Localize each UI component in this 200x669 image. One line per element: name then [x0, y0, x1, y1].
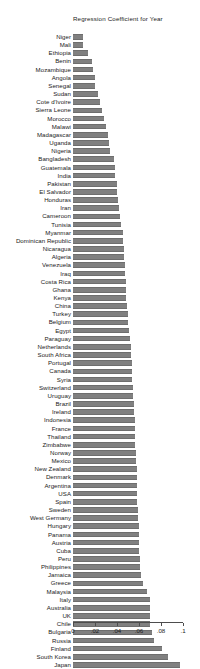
bar-category-label: Indonesia — [0, 416, 71, 424]
bar-category-label: South Africa — [0, 351, 71, 359]
bar-category-label: Netherlands — [0, 343, 71, 351]
bar-category-label: Iran — [0, 204, 71, 212]
bar-category-label: Mexico — [0, 457, 71, 465]
bar-row: New Zealand — [0, 465, 200, 473]
bar-track — [73, 604, 183, 612]
bar-category-label: Uganda — [0, 139, 71, 147]
bar-row: Spain — [0, 498, 200, 506]
bar-category-label: Ethiopia — [0, 49, 71, 57]
bar-fill — [73, 50, 88, 56]
bar-row: Benin — [0, 57, 200, 65]
bar-category-label: USA — [0, 490, 71, 498]
bar-fill — [73, 417, 135, 423]
x-axis-tick — [95, 623, 96, 626]
bar-fill — [73, 499, 137, 505]
bar-row: Syria — [0, 376, 200, 384]
bar-fill — [73, 450, 136, 456]
bar-category-label: Ireland — [0, 408, 71, 416]
bar-category-label: Pakistan — [0, 180, 71, 188]
x-axis-tick — [117, 623, 118, 626]
bar-fill — [73, 352, 131, 358]
bar-track — [73, 188, 183, 196]
bar-fill — [73, 401, 134, 407]
bar-category-label: Uruguay — [0, 392, 71, 400]
bar-fill — [73, 271, 125, 277]
x-axis-tick — [73, 623, 74, 626]
bar-category-label: Malaysia — [0, 588, 71, 596]
bar-row: Turkey — [0, 310, 200, 318]
bar-row: Iran — [0, 204, 200, 212]
bar-category-label: Niger — [0, 33, 71, 41]
bar-track — [73, 106, 183, 114]
bar-fill — [73, 91, 98, 97]
bar-fill — [73, 589, 147, 595]
bar-category-label: Spain — [0, 498, 71, 506]
bar-row: Cuba — [0, 547, 200, 555]
bar-fill — [73, 222, 121, 228]
bar-row: Iraq — [0, 270, 200, 278]
bar-category-label: Senegal — [0, 82, 71, 90]
x-axis-tick — [183, 623, 184, 626]
bar-category-label: Portugal — [0, 359, 71, 367]
bar-track — [73, 482, 183, 490]
bar-row: Ghana — [0, 286, 200, 294]
bar-fill — [73, 385, 133, 391]
bar-fill — [73, 132, 108, 138]
bar-category-label: Hungary — [0, 522, 71, 530]
bar-track — [73, 302, 183, 310]
bar-row: China — [0, 302, 200, 310]
bar-track — [73, 33, 183, 41]
bar-track — [73, 367, 183, 375]
bar-fill — [73, 116, 104, 122]
bar-row: France — [0, 425, 200, 433]
bar-fill — [73, 344, 131, 350]
bar-row: Egypt — [0, 327, 200, 335]
bar-fill — [73, 483, 137, 489]
bar-track — [73, 115, 183, 123]
bar-fill — [73, 189, 117, 195]
bar-row: Sudan — [0, 90, 200, 98]
bar-category-label: India — [0, 172, 71, 180]
bar-fill — [73, 540, 139, 546]
bar-row: Canada — [0, 367, 200, 375]
x-axis-tick — [139, 623, 140, 626]
bar-category-label: Denmark — [0, 473, 71, 481]
bar-track — [73, 245, 183, 253]
bar-track — [73, 425, 183, 433]
bar-category-label: Canada — [0, 367, 71, 375]
bar-row: Switzerland — [0, 384, 200, 392]
bar-row: UK — [0, 612, 200, 620]
bar-row: Honduras — [0, 196, 200, 204]
bar-row: Cameroon — [0, 212, 200, 220]
bar-track — [73, 384, 183, 392]
bar-fill — [73, 75, 95, 81]
bar-category-label: Cameroon — [0, 212, 71, 220]
bar-fill — [73, 197, 118, 203]
bar-row: Malaysia — [0, 588, 200, 596]
bar-fill — [73, 311, 128, 317]
bar-track — [73, 571, 183, 579]
bar-fill — [73, 181, 117, 187]
bar-fill — [73, 124, 106, 130]
bar-row: Kenya — [0, 294, 200, 302]
bar-fill — [73, 328, 129, 334]
bar-track — [73, 310, 183, 318]
bar-fill — [73, 156, 114, 162]
bar-track — [73, 359, 183, 367]
bar-row: Brazil — [0, 400, 200, 408]
bar-track — [73, 164, 183, 172]
bar-row: Sierra Leone — [0, 106, 200, 114]
bar-fill — [73, 287, 126, 293]
bar-fill — [73, 59, 92, 65]
bar-track — [73, 74, 183, 82]
bar-category-label: Iraq — [0, 270, 71, 278]
bar-fill — [73, 336, 130, 342]
bar-row: Uruguay — [0, 392, 200, 400]
bar-track — [73, 123, 183, 131]
bar-row: Angola — [0, 74, 200, 82]
bar-track — [73, 270, 183, 278]
bar-category-label: Morocco — [0, 115, 71, 123]
bar-track — [73, 457, 183, 465]
bar-fill — [73, 581, 143, 587]
bar-category-label: Japan — [0, 661, 71, 669]
